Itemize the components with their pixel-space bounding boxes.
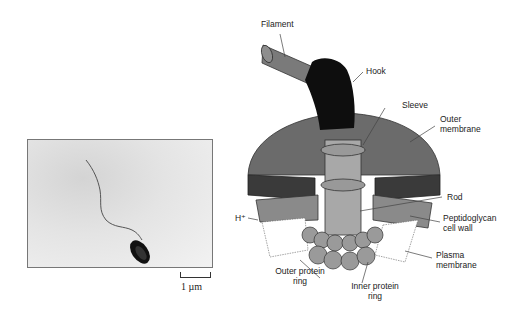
label-outer-ring-1: Outer protein — [260, 266, 340, 276]
label-rod: Rod — [447, 192, 463, 202]
label-plasma-1: Plasma — [436, 250, 464, 260]
label-hook: Hook — [366, 66, 386, 76]
label-inner-ring-2: ring — [335, 291, 415, 301]
label-outer-membrane-2: membrane — [440, 124, 481, 134]
label-peptidoglycan-1: Peptidoglycan — [443, 213, 496, 223]
label-inner-ring-1: Inner protein — [335, 281, 415, 291]
label-outer-ring-2: ring — [260, 276, 340, 286]
rod — [321, 140, 365, 235]
label-peptidoglycan-2: cell wall — [443, 223, 473, 233]
label-filament: Filament — [261, 19, 294, 29]
label-outer-membrane-1: Outer — [440, 114, 461, 124]
label-h-plus: H⁺ — [235, 213, 246, 223]
label-sleeve: Sleeve — [402, 100, 428, 110]
label-plasma-2: membrane — [436, 260, 477, 270]
sleeve — [321, 144, 365, 156]
